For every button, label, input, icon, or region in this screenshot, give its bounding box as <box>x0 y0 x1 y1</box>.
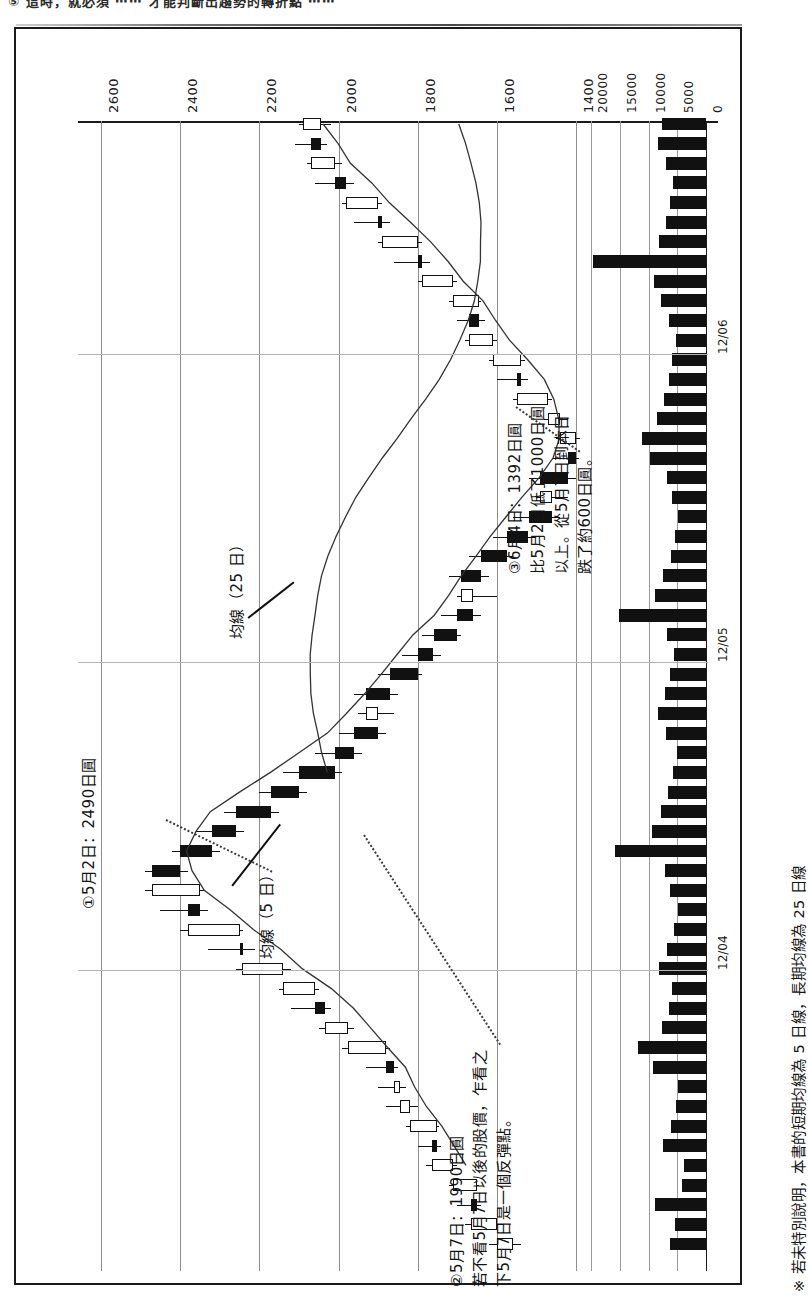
candle-body <box>366 688 390 700</box>
candle-body <box>469 334 493 346</box>
date-axis-tick-label: 12/06 <box>716 319 730 354</box>
volume-bar <box>663 1139 706 1152</box>
volume-bar <box>678 510 706 523</box>
candle-body <box>346 197 378 209</box>
volume-bar <box>675 1218 706 1231</box>
annotation-1-line-1: ①5月2日：2490日圓 <box>78 757 101 909</box>
volume-bar <box>672 491 706 504</box>
volume-bar <box>659 235 706 248</box>
volume-bar <box>665 864 706 877</box>
candle-body <box>240 943 243 955</box>
volume-gridline <box>706 121 707 1271</box>
ma25-label-text: 均線（25 日） <box>226 536 249 639</box>
volume-axis-tick-label: 15000 <box>625 72 639 113</box>
volume-bar <box>678 1080 706 1093</box>
candle-body <box>348 1041 386 1053</box>
volume-bar <box>678 903 706 916</box>
volume-bar <box>667 943 706 956</box>
date-gridline <box>78 662 708 663</box>
candle-body <box>453 295 479 307</box>
price-gridline <box>576 121 577 1271</box>
volume-bar <box>657 412 706 425</box>
price-axis-tick-label: 2400 <box>185 78 200 113</box>
price-axis-tick-label: 2000 <box>344 78 359 113</box>
price-gridline <box>339 121 340 1271</box>
annotation-2-line-1: ②5月7日：1990日圓 <box>446 1050 469 1287</box>
volume-bar <box>673 176 706 189</box>
candle-body <box>354 727 378 739</box>
candle-body <box>283 982 315 994</box>
price-gridline <box>259 121 260 1271</box>
volume-axis-tick-label: 5000 <box>682 80 696 113</box>
candle-body <box>271 786 299 798</box>
volume-bar <box>652 825 706 838</box>
candle-body <box>311 157 335 169</box>
volume-bar <box>658 137 706 150</box>
candle-body <box>461 589 473 601</box>
candle-body <box>422 275 454 287</box>
volume-bar <box>655 589 706 602</box>
date-axis-tick-label: 12/04 <box>716 935 730 970</box>
candle-body <box>325 1022 349 1034</box>
candle-body <box>400 1100 410 1112</box>
price-axis-tick-label: 2600 <box>106 78 121 113</box>
volume-gridline <box>649 121 650 1271</box>
volume-axis-tick-label: 10000 <box>654 72 668 113</box>
volume-bar <box>670 1238 706 1251</box>
candle-body <box>366 707 378 719</box>
candle-body <box>188 904 200 916</box>
annotation-2-line-3: 下5月7日是一個反彈點。 <box>493 1050 516 1287</box>
price-axis-tick-label: 1600 <box>502 78 517 113</box>
volume-gridline <box>591 121 592 1271</box>
ma5-label-text: 均線（5 日） <box>256 866 279 959</box>
candle-body <box>517 393 549 405</box>
volume-bar <box>665 687 706 700</box>
candle-body <box>418 255 422 267</box>
volume-bar <box>666 216 706 229</box>
candle-body <box>303 118 321 130</box>
annotation-3-line-3: 以上。從5月7日到本日 <box>551 405 574 574</box>
volume-bar <box>654 275 706 288</box>
volume-bar <box>684 1159 706 1172</box>
candle-body <box>390 668 418 680</box>
candle-wick <box>208 949 256 950</box>
candle-body <box>493 354 521 366</box>
annotation-3-line-1: ③6月4日：1392日圓 <box>504 405 527 574</box>
volume-bar <box>671 1120 706 1133</box>
candle-body <box>188 924 239 936</box>
volume-bar <box>666 727 706 740</box>
candle-wick <box>160 910 208 911</box>
volume-bar <box>593 255 706 268</box>
volume-bar <box>667 471 706 484</box>
candle-body <box>311 138 321 150</box>
volume-bar <box>668 786 706 799</box>
candle-body <box>315 1002 325 1014</box>
footnote-text: ※ 若未特別說明，本書的短期均線為 5 日線，長期均線為 25 日線 <box>787 866 808 1292</box>
volume-bar <box>658 707 706 720</box>
price-axis-tick-label: 1800 <box>423 78 438 113</box>
annotation-1: ①5月2日：2490日圓 <box>78 757 101 909</box>
ma5-line <box>187 124 560 1165</box>
volume-bar <box>661 294 706 307</box>
volume-bar <box>669 314 706 327</box>
annotation-2-line-2: 若不看5月7日以後的股價，乍看之 <box>469 1050 492 1287</box>
volume-gridline <box>620 121 621 1271</box>
volume-bar <box>619 609 706 622</box>
candle-body <box>432 1140 438 1152</box>
candle-body <box>212 825 236 837</box>
volume-bar <box>671 550 706 563</box>
candle-body <box>236 806 272 818</box>
volume-bar <box>655 1198 706 1211</box>
candle-wick <box>497 379 529 380</box>
volume-bar <box>676 1100 706 1113</box>
volume-bar <box>676 334 706 347</box>
candle-wick <box>291 1008 331 1009</box>
candle-body <box>152 884 200 896</box>
candle-body <box>517 373 521 385</box>
annotation-2-leader <box>363 834 501 1045</box>
price-axis-line <box>78 121 718 123</box>
candle-body <box>335 177 347 189</box>
volume-bar <box>669 1002 706 1015</box>
chart-plot-surface: 2600240022002000180016001400200001500010… <box>16 29 744 1287</box>
volume-bar <box>670 884 706 897</box>
